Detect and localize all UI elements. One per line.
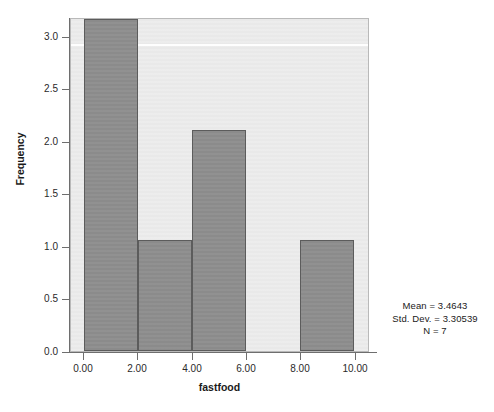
y-axis-tick [62, 142, 70, 143]
x-axis-tick-label: 10.00 [325, 363, 385, 374]
histogram-chart: 0.0 0.5 1.0 1.5 2.0 2.5 3.0 0.00 2.00 4.… [0, 0, 494, 412]
y-axis-tick-label: 1.0 [18, 242, 58, 252]
x-axis-tick-label: 2.00 [107, 363, 167, 374]
y-axis-line [69, 18, 70, 353]
stat-std-dev: Std. Dev. = 3.30539 [379, 313, 491, 326]
y-axis-tick-label: 0.0 [18, 347, 58, 357]
histogram-bar[interactable] [192, 130, 246, 351]
histogram-bar[interactable] [300, 240, 354, 351]
stat-n: N = 7 [379, 325, 491, 338]
bar-texture [139, 241, 191, 350]
x-axis-tick [246, 352, 247, 360]
x-axis-tick-label: 4.00 [162, 363, 222, 374]
y-axis-tick-label: 2.5 [18, 84, 58, 94]
x-axis-tick [192, 352, 193, 360]
x-axis-tick-label: 8.00 [270, 363, 330, 374]
bar-texture [301, 241, 353, 350]
x-axis-tick [137, 352, 138, 360]
y-axis-tick-label: 3.0 [18, 32, 58, 42]
x-axis-tick-label: 6.00 [216, 363, 276, 374]
y-axis-tick [62, 352, 70, 353]
y-axis-tick [62, 299, 70, 300]
y-axis-tick [62, 89, 70, 90]
stat-mean: Mean = 3.4643 [379, 300, 491, 313]
y-axis-tick [62, 37, 70, 38]
x-axis-tick [300, 352, 301, 360]
statistics-annotation: Mean = 3.4643 Std. Dev. = 3.30539 N = 7 [379, 300, 491, 338]
bar-texture [193, 131, 245, 350]
x-axis-tick [83, 352, 84, 360]
y-axis-tick [62, 247, 70, 248]
x-axis-title: fastfood [70, 381, 369, 393]
histogram-bar[interactable] [84, 19, 138, 351]
y-axis-title: Frequency [14, 119, 26, 199]
bar-texture [85, 20, 137, 350]
y-axis-tick-label: 0.5 [18, 294, 58, 304]
x-axis-tick [355, 352, 356, 360]
y-axis-tick [62, 194, 70, 195]
plot-area [70, 18, 369, 352]
x-axis-tick-label: 0.00 [53, 363, 113, 374]
histogram-bar[interactable] [138, 240, 192, 351]
x-axis-line [62, 352, 377, 353]
